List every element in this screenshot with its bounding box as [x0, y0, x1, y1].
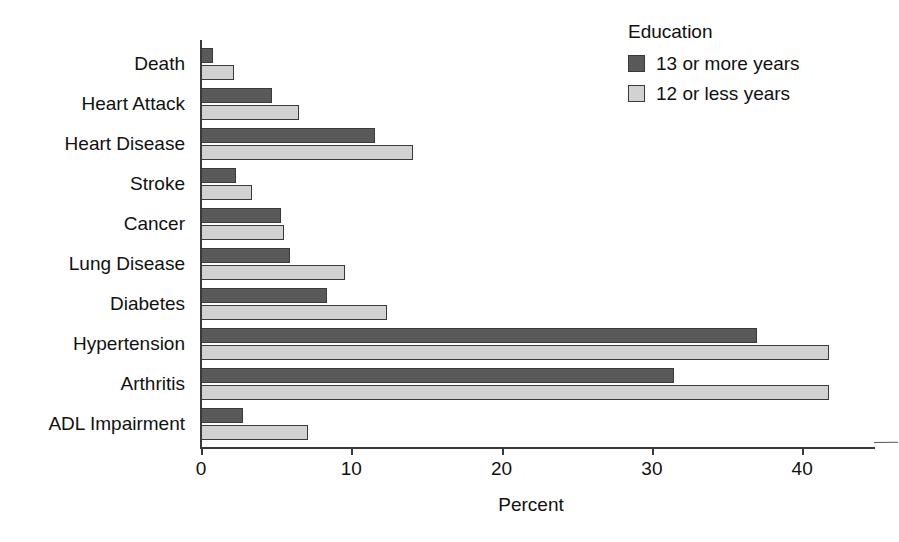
legend-label: 13 or more years [656, 54, 800, 73]
x-axis-tick [201, 448, 203, 455]
x-axis-tick-label: 10 [331, 458, 371, 480]
legend: Education 13 or more years12 or less yea… [628, 22, 878, 114]
bar [201, 88, 272, 103]
category-label: Heart Attack [0, 94, 185, 113]
bar [201, 408, 243, 423]
category-label: Heart Disease [0, 134, 185, 153]
category-label: Lung Disease [0, 254, 185, 273]
bar [201, 248, 290, 263]
bar [201, 385, 829, 400]
legend-label: 12 or less years [656, 84, 790, 103]
legend-entries: 13 or more years12 or less years [628, 54, 878, 103]
x-axis-line-extension [874, 442, 898, 443]
bar [201, 328, 757, 343]
bar [201, 225, 284, 240]
bar [201, 305, 387, 320]
category-label: Diabetes [0, 294, 185, 313]
x-axis-tick [652, 448, 654, 455]
legend-entry: 12 or less years [628, 84, 878, 103]
category-label: ADL Impairment [0, 414, 185, 433]
bar [201, 425, 308, 440]
category-label: Death [0, 54, 185, 73]
bar [201, 288, 327, 303]
x-axis-tick [502, 448, 504, 455]
x-axis-tick-label: 20 [482, 458, 522, 480]
legend-swatch [628, 85, 645, 102]
x-axis-tick-label: 0 [181, 458, 221, 480]
category-label: Arthritis [0, 374, 185, 393]
x-axis-line [200, 447, 875, 449]
bar [201, 185, 252, 200]
bar [201, 145, 413, 160]
bar [201, 128, 375, 143]
category-label: Hypertension [0, 334, 185, 353]
x-axis-title: Percent [201, 494, 861, 516]
bar [201, 345, 829, 360]
x-axis-tick-label: 40 [782, 458, 822, 480]
x-axis-tick-label: 30 [632, 458, 672, 480]
x-axis-tick [802, 448, 804, 455]
y-axis-category-labels: DeathHeart AttackHeart DiseaseStrokeCanc… [0, 0, 185, 460]
bar [201, 368, 674, 383]
legend-entry: 13 or more years [628, 54, 878, 73]
x-axis-tick [351, 448, 353, 455]
bar [201, 168, 236, 183]
bar [201, 105, 299, 120]
bar [201, 265, 345, 280]
horizontal-bar-chart: DeathHeart AttackHeart DiseaseStrokeCanc… [0, 0, 899, 542]
legend-title: Education [628, 22, 878, 41]
category-label: Cancer [0, 214, 185, 233]
y-axis-line [200, 40, 202, 448]
legend-swatch [628, 55, 645, 72]
category-label: Stroke [0, 174, 185, 193]
bar [201, 208, 281, 223]
bar [201, 65, 234, 80]
bar [201, 48, 213, 63]
